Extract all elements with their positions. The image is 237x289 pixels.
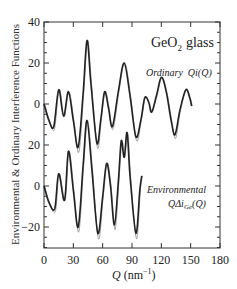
series-label-environmental: Environmental: [146, 184, 206, 195]
x-tick-label: 60: [97, 253, 109, 267]
series-ordinary-line: [44, 40, 192, 147]
y-tick-label: −20: [21, 220, 40, 234]
y-tick-label: 20: [28, 56, 40, 70]
y-tick-label: 0: [34, 179, 40, 193]
interference-function-chart: 0306090120150180 40200200−20 GeO2glass O…: [0, 0, 237, 289]
x-tick-label: 0: [41, 253, 47, 267]
x-axis-label: Q(nm−1): [112, 267, 156, 282]
series-label-environmental-func: QΔiGe(Q): [168, 198, 207, 211]
y-tick-label: 20: [28, 138, 40, 152]
x-tick-label: 150: [182, 253, 200, 267]
series-label-ordinary: OrdinaryQi(Q): [146, 67, 212, 79]
x-tick-label: 30: [67, 253, 79, 267]
x-tick-label: 90: [126, 253, 138, 267]
y-axis-label: Environmental & Ordinary Interference Fu…: [9, 24, 21, 245]
plot-frame: [44, 22, 220, 248]
y-tick-label: 0: [34, 97, 40, 111]
x-tick-label: 180: [211, 253, 229, 267]
y-tick-label: 40: [28, 15, 40, 29]
x-tick-label: 120: [152, 253, 170, 267]
chart-title: GeO2glass: [151, 35, 214, 53]
